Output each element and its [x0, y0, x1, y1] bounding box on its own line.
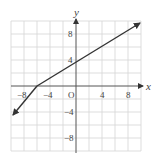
- y-tick-label: 8: [68, 29, 73, 39]
- x-tick-label: 8: [126, 90, 131, 100]
- y-tick-label: −8: [64, 133, 74, 143]
- x-tick-label: −4: [43, 90, 53, 100]
- x-axis-label: x: [145, 80, 151, 92]
- coordinate-plane: y x −8 −4 O 4 8 8 4 −4 −8: [0, 0, 160, 160]
- y-axis-label: y: [73, 6, 79, 18]
- plotted-line: [37, 23, 140, 86]
- x-tick-label: −8: [17, 90, 27, 100]
- y-tick-label: 4: [68, 55, 73, 65]
- origin-label: O: [68, 90, 75, 100]
- x-tick-label: 4: [100, 90, 105, 100]
- y-tick-label: −4: [64, 107, 74, 117]
